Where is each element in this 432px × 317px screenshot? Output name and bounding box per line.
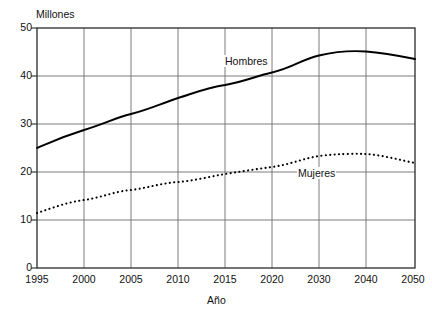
series-annotation-hombres: Hombres <box>224 55 269 67</box>
series-line-mujeres <box>37 154 415 213</box>
series-annotation-mujeres: Mujeres <box>297 167 336 179</box>
horizontal-gridlines <box>37 76 415 220</box>
population-projection-chart: Millones 50 40 30 20 10 0 1995 2000 2005… <box>0 0 432 317</box>
chart-plot-area <box>0 0 432 317</box>
